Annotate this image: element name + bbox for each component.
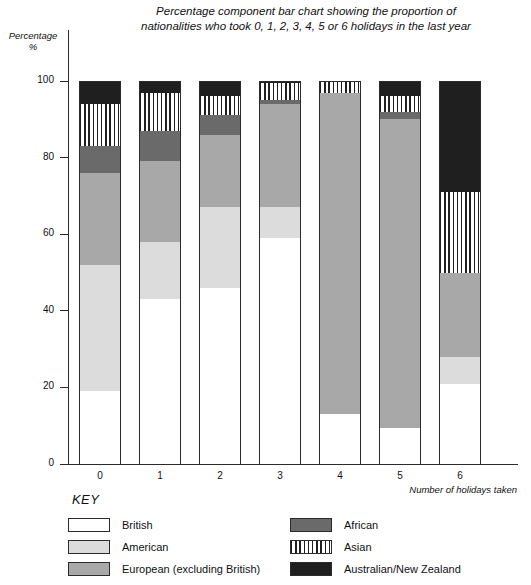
x-axis-tick-label-5: 5	[380, 470, 420, 481]
x-axis-tick-label-4: 4	[320, 470, 360, 481]
legend-swatch-icon	[290, 562, 332, 576]
bar-segment-2-australian-new-zealand[interactable]	[200, 81, 240, 96]
y-axis-tick-label: 60	[14, 227, 54, 238]
bar-1[interactable]	[139, 81, 181, 464]
y-axis-tick	[60, 81, 69, 82]
bar-6[interactable]	[439, 81, 481, 464]
bar-segment-3-american[interactable]	[260, 207, 300, 238]
y-axis-line	[68, 30, 69, 465]
bar-top-cap	[80, 81, 120, 82]
legend-item-label: Asian	[344, 541, 372, 553]
bar-4[interactable]	[319, 81, 361, 464]
bar-segment-4-european-excluding-british[interactable]	[320, 93, 360, 415]
bar-0[interactable]	[79, 81, 121, 464]
bar-segment-0-british[interactable]	[80, 391, 120, 464]
bar-segment-0-european-excluding-british[interactable]	[80, 173, 120, 265]
y-axis-tick	[60, 157, 69, 158]
x-axis-tick-label-0: 0	[80, 470, 120, 481]
bar-3[interactable]	[259, 81, 301, 464]
x-axis-tick-label-6: 6	[440, 470, 480, 481]
legend-item[interactable]: African	[290, 514, 520, 536]
legend-column-left: BritishAmericanEuropean (excluding Briti…	[68, 514, 298, 580]
bar-segment-3-african[interactable]	[260, 100, 300, 104]
bar-segment-1-american[interactable]	[140, 242, 180, 299]
legend-item-label: Australian/New Zealand	[344, 563, 461, 575]
bar-segment-0-australian-new-zealand[interactable]	[80, 81, 120, 104]
bar-segment-6-asian[interactable]	[440, 192, 480, 272]
y-axis-tick	[60, 464, 69, 465]
legend-title: KEY	[72, 492, 99, 507]
legend-column-right: AfricanAsianAustralian/New Zealand	[290, 514, 520, 580]
y-axis-tick	[60, 387, 69, 388]
legend-item[interactable]: American	[68, 536, 298, 558]
y-axis-tick-label: 40	[14, 304, 54, 315]
legend-item[interactable]: British	[68, 514, 298, 536]
bar-segment-3-asian[interactable]	[260, 83, 300, 100]
bar-top-cap	[200, 81, 240, 82]
legend-item-label: European (excluding British)	[122, 563, 260, 575]
bar-segment-1-australian-new-zealand[interactable]	[140, 81, 180, 92]
bar-top-cap	[440, 81, 480, 82]
y-axis-tick-label: 20	[14, 380, 54, 391]
bar-segment-0-asian[interactable]	[80, 104, 120, 146]
legend-swatch-icon	[290, 518, 332, 532]
percentage-component-bar-chart: Percentage component bar chart showing t…	[0, 0, 531, 585]
bar-segment-6-european-excluding-british[interactable]	[440, 273, 480, 357]
bar-top-cap	[260, 81, 300, 82]
y-axis-tick-label: 100	[14, 74, 54, 85]
x-axis-tick-label-3: 3	[260, 470, 300, 481]
legend-swatch-icon	[290, 540, 332, 554]
bar-2[interactable]	[199, 81, 241, 464]
bar-segment-3-british[interactable]	[260, 238, 300, 464]
y-axis-tick-label: 80	[14, 151, 54, 162]
bar-segment-3-european-excluding-british[interactable]	[260, 104, 300, 207]
bar-segment-6-australian-new-zealand[interactable]	[440, 81, 480, 192]
legend-item[interactable]: European (excluding British)	[68, 558, 298, 580]
x-axis-tick-label-1: 1	[140, 470, 180, 481]
bar-segment-4-british[interactable]	[320, 414, 360, 464]
legend-item-label: African	[344, 519, 378, 531]
bar-segment-1-british[interactable]	[140, 299, 180, 464]
bar-segment-1-european-excluding-british[interactable]	[140, 161, 180, 241]
legend: BritishAmericanEuropean (excluding Briti…	[68, 514, 518, 580]
bar-segment-2-european-excluding-british[interactable]	[200, 135, 240, 208]
legend-item[interactable]: Asian	[290, 536, 520, 558]
x-axis-line	[68, 464, 518, 465]
y-axis-tick	[60, 310, 69, 311]
bar-segment-4-asian[interactable]	[320, 81, 360, 92]
bar-segment-6-american[interactable]	[440, 357, 480, 384]
bar-top-cap	[320, 81, 360, 82]
bar-segment-2-african[interactable]	[200, 115, 240, 134]
bar-segment-0-american[interactable]	[80, 265, 120, 391]
bar-segment-1-asian[interactable]	[140, 93, 180, 131]
bar-segment-5-asian[interactable]	[380, 96, 420, 111]
y-axis-tick-label: 0	[14, 457, 54, 468]
bar-top-cap	[380, 81, 420, 82]
x-axis-tick-label-2: 2	[200, 470, 240, 481]
bar-segment-5-british[interactable]	[380, 428, 420, 464]
bar-top-cap	[140, 81, 180, 82]
x-axis-caption: Number of holidays taken	[409, 484, 517, 495]
bar-segment-1-african[interactable]	[140, 131, 180, 162]
bar-segment-0-african[interactable]	[80, 146, 120, 173]
bar-segment-5-african[interactable]	[380, 112, 420, 120]
legend-item[interactable]: Australian/New Zealand	[290, 558, 520, 580]
legend-item-label: American	[122, 541, 168, 553]
y-axis-tick	[60, 234, 69, 235]
bar-segment-5-australian-new-zealand[interactable]	[380, 81, 420, 96]
legend-swatch-icon	[68, 562, 110, 576]
legend-swatch-icon	[68, 518, 110, 532]
bar-5[interactable]	[379, 81, 421, 464]
legend-item-label: British	[122, 519, 153, 531]
bar-segment-2-asian[interactable]	[200, 96, 240, 115]
bar-segment-2-british[interactable]	[200, 288, 240, 464]
bar-segment-6-british[interactable]	[440, 384, 480, 464]
legend-swatch-icon	[68, 540, 110, 554]
bar-segment-5-european-excluding-british[interactable]	[380, 119, 420, 427]
bar-segment-2-american[interactable]	[200, 207, 240, 287]
